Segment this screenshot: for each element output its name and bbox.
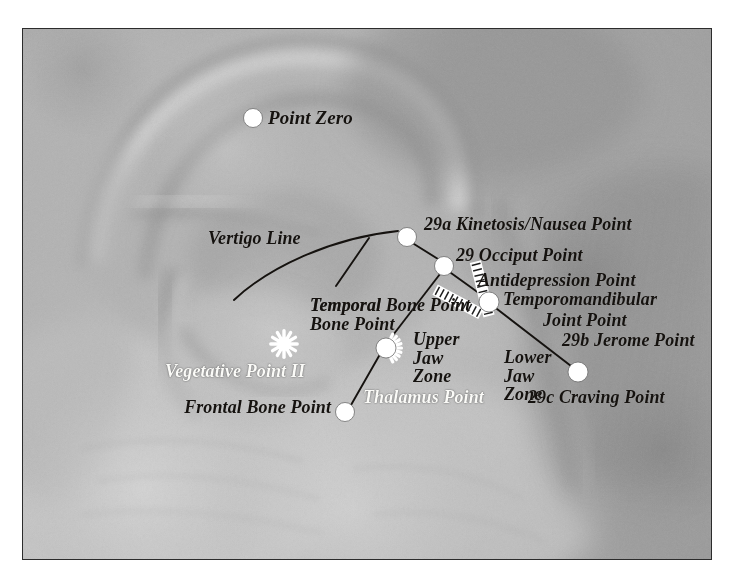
label-tmj-joint-point: Joint Point xyxy=(543,311,627,330)
label-vertigo-line: Vertigo Line xyxy=(208,229,301,248)
cog-tooth xyxy=(393,356,396,360)
label-line: Jaw xyxy=(504,367,552,386)
dot-marker-icon[interactable] xyxy=(244,109,263,128)
dot-marker-icon[interactable] xyxy=(435,257,454,276)
label-upper-jaw-zone: UpperJawZone xyxy=(413,330,460,386)
label-line: Jaw xyxy=(413,349,460,368)
label-lower-jaw-zone: LowerJawZone xyxy=(504,348,552,404)
starburst-hub xyxy=(277,337,291,351)
label-line: Zone xyxy=(504,385,552,404)
starburst-marker-icon[interactable] xyxy=(271,331,297,357)
starburst-ray xyxy=(277,350,280,356)
cog-tooth xyxy=(391,357,393,361)
label-vegetative-2: Vegetative Point II xyxy=(165,362,305,381)
cog-tooth xyxy=(396,351,401,352)
label-jerome: 29b Jerome Point xyxy=(562,331,695,350)
label-point-zero: Point Zero xyxy=(268,108,353,128)
cog-hub xyxy=(376,338,396,358)
label-kinetosis-nausea: 29a Kinetosis/Nausea Point xyxy=(424,215,632,234)
connector-line-icon xyxy=(414,244,438,259)
cog-marker-icon[interactable] xyxy=(376,334,402,362)
connector-line-icon xyxy=(336,238,369,286)
label-temporomandibular: Temporomandibular xyxy=(503,290,657,309)
label-line: Upper xyxy=(413,330,460,349)
starburst-ray xyxy=(273,347,279,350)
starburst-ray xyxy=(287,333,290,339)
cog-tooth xyxy=(395,340,399,343)
label-temporal-bone-point: TemporalBone Point xyxy=(310,296,395,333)
dot-marker-icon[interactable] xyxy=(336,403,355,422)
cog-tooth xyxy=(391,334,393,338)
label-line: Zone xyxy=(413,367,460,386)
label-line: Bone Point xyxy=(310,315,395,334)
starburst-ray xyxy=(287,350,290,356)
cog-tooth xyxy=(393,336,396,340)
label-line: Temporal xyxy=(310,296,395,315)
label-frontal-bone: Frontal Bone Point xyxy=(184,398,331,417)
cog-tooth xyxy=(396,344,401,345)
figure-stage: Point Zero29a Kinetosis/Nausea Point29 O… xyxy=(0,0,735,584)
starburst-ray xyxy=(290,347,296,350)
label-occiput: 29 Occiput Point xyxy=(456,246,583,265)
dot-marker-icon[interactable] xyxy=(398,228,417,247)
cog-tooth xyxy=(395,354,399,357)
starburst-ray xyxy=(273,337,279,340)
starburst-ray xyxy=(277,333,280,339)
dot-marker-icon[interactable] xyxy=(568,362,588,382)
label-thalamus: Thalamus Point xyxy=(363,388,484,407)
dot-marker-icon[interactable] xyxy=(479,292,499,312)
label-line: Lower xyxy=(504,348,552,367)
starburst-ray xyxy=(290,337,296,340)
label-antidepression: Antidepression Point xyxy=(478,271,636,290)
